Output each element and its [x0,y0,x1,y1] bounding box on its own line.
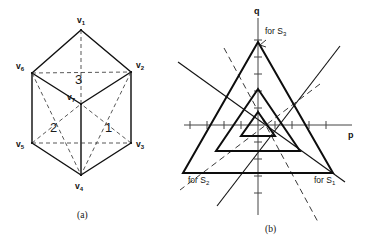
caption-panel-b: (b) [265,224,276,235]
label-for-s1: for S1 [314,175,336,186]
p-axis-label: p [348,130,354,140]
label-for-s2: for S2 [188,175,210,186]
figure-root: v1 v2 v3 v4 v5 v6 v7 3 2 1 [0,0,365,249]
label-for-s3: for S3 [265,26,287,37]
panel-b-pq-plane: q p for S3 for S2 for S1 (b) [0,0,365,249]
q-axis-label: q [254,6,260,16]
